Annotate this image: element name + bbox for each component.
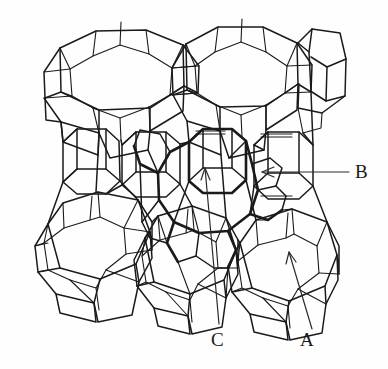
cage-lower-middle xyxy=(134,206,238,334)
cage-lower-right-A xyxy=(228,209,339,340)
hex-prism-center xyxy=(189,129,246,193)
annotation-label-c: C xyxy=(211,330,224,349)
zeolite-framework-figure: .e { stroke:#1a1a1a; fill:none; stroke-w… xyxy=(0,0,388,369)
hex-prism-left-outer xyxy=(63,129,120,194)
framework-drawing: .e { stroke:#1a1a1a; fill:none; stroke-w… xyxy=(0,0,388,369)
label-leader-A xyxy=(286,252,312,329)
annotation-label-b: B xyxy=(355,162,368,181)
hex-prism-left-inner xyxy=(122,132,180,197)
cage-upper-right xyxy=(298,29,346,133)
label-leader-B xyxy=(262,167,349,177)
annotation-label-a: A xyxy=(300,330,314,349)
